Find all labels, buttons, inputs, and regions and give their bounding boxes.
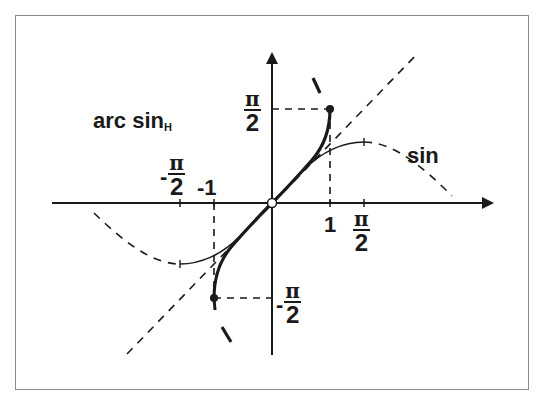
neg-one-text: -1 (197, 175, 217, 200)
diagram-canvas (0, 0, 541, 407)
pi-symbol: π (244, 90, 261, 111)
minus-sign: - (160, 164, 167, 190)
denominator: 2 (286, 303, 299, 327)
endpoint-dot-bottom (210, 294, 218, 302)
sin-label: sin (407, 145, 439, 167)
pi-symbol: π (353, 210, 370, 231)
denominator: 2 (355, 231, 368, 255)
x-label-one: 1 (324, 214, 336, 236)
arcsin-label: arc sinH (93, 110, 172, 133)
y-label-pi-over-2: π 2 (244, 90, 261, 135)
denominator: 2 (246, 111, 259, 135)
x-label-neg-pi-over-2: - π 2 (160, 154, 185, 199)
y-label-neg-pi-over-2: - π 2 (276, 282, 301, 327)
sin-label-text: sin (407, 143, 439, 168)
minus-sign: - (276, 292, 283, 318)
arcsin-extension-bottom (222, 327, 231, 342)
sin-curve-dashed-left (94, 213, 180, 264)
arcsin-label-text: arc sin (93, 108, 164, 133)
pi-symbol: π (168, 154, 185, 175)
pi-symbol: π (284, 282, 301, 303)
x-label-neg-one: -1 (197, 177, 217, 199)
denominator: 2 (170, 175, 183, 199)
x-label-pi-over-2: π 2 (353, 210, 370, 255)
endpoint-dot-top (326, 105, 334, 113)
one-text: 1 (324, 212, 336, 237)
arcsin-extension-top (313, 78, 320, 93)
arcsin-subscript: H (164, 121, 172, 133)
origin-open-circle (268, 199, 277, 208)
